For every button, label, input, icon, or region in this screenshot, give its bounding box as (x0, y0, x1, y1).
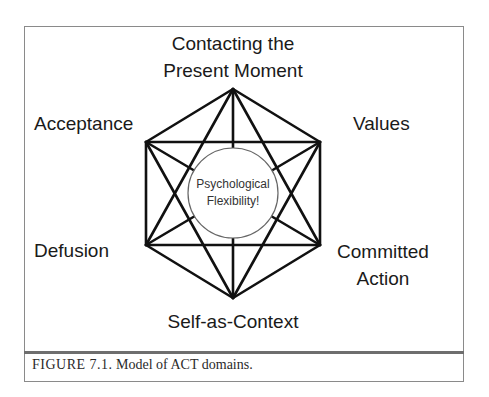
label-present-moment-line2: Present Moment (143, 57, 323, 84)
label-acceptance: Acceptance (34, 110, 133, 137)
label-self-as-context: Self-as-Context (143, 308, 323, 335)
label-present-moment-line1: Contacting the (143, 30, 323, 57)
center-label-line1: Psychological (188, 176, 278, 193)
label-values: Values (353, 110, 410, 137)
figure-caption: FIGURE 7.1. Model of ACT domains. (32, 357, 253, 373)
center-label: Psychological Flexibility! (188, 176, 278, 210)
center-label-line2: Flexibility! (188, 193, 278, 210)
label-defusion: Defusion (34, 237, 109, 264)
label-committed-action-line2: Action (323, 265, 443, 292)
label-present-moment: Contacting the Present Moment (143, 30, 323, 84)
label-committed-action: Committed Action (323, 238, 443, 292)
figure-number: FIGURE 7.1. (32, 357, 113, 372)
figure-caption-text: Model of ACT domains. (116, 357, 253, 372)
label-committed-action-line1: Committed (323, 238, 443, 265)
